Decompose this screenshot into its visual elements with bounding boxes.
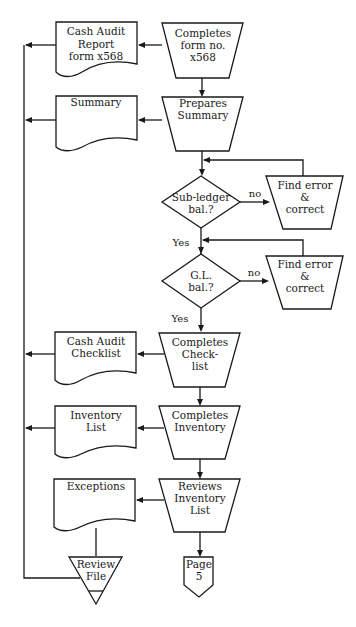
arrow-icon <box>137 425 144 431</box>
arrow-icon <box>25 42 32 48</box>
decision-label: G.L.bal.? <box>188 269 214 293</box>
arrow-icon <box>136 497 143 503</box>
doc-label: Cash AuditChecklist <box>67 335 126 359</box>
arrow-icon <box>197 399 203 406</box>
yes-label: Yes <box>172 237 190 248</box>
loop-back-line <box>203 240 303 256</box>
doc-label: Exceptions <box>67 480 125 492</box>
arrow-icon <box>25 117 32 123</box>
arrow-icon <box>138 117 145 123</box>
arrow-icon <box>199 169 205 176</box>
flowchart: Cash AuditReportform x568 Completesform … <box>0 0 356 627</box>
no-label: no <box>248 267 260 278</box>
arrow-icon <box>202 237 209 243</box>
loop-back-line <box>204 160 303 176</box>
arrow-icon <box>203 157 210 163</box>
arrow-icon <box>263 199 270 205</box>
arrow-icon <box>25 351 32 357</box>
arrow-icon <box>198 325 204 332</box>
arrow-icon <box>198 247 204 254</box>
arrow-icon <box>138 42 145 48</box>
arrow-icon <box>197 472 203 479</box>
yes-label: Yes <box>171 313 189 324</box>
arrow-icon <box>197 550 203 557</box>
process-label: CompletesInventory <box>172 409 228 433</box>
arrow-icon <box>262 278 269 284</box>
arrow-icon <box>199 90 205 97</box>
arrow-icon <box>25 425 32 431</box>
no-label: no <box>249 188 261 199</box>
doc-label: Summary <box>70 96 121 108</box>
arrow-icon <box>137 351 144 357</box>
process-label: PreparesSummary <box>177 97 228 121</box>
